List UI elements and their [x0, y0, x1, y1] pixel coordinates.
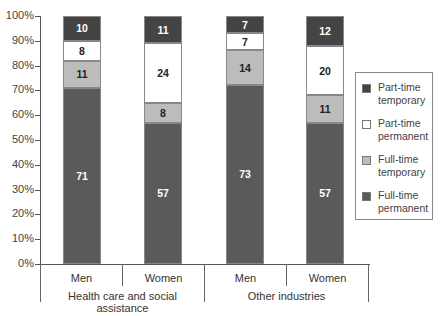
legend-swatch [362, 120, 371, 129]
legend-item-full-time-permanent: Full-timepermanent [362, 189, 434, 215]
bar-segment: 12 [306, 16, 344, 46]
stacked-bar: 7111810 [63, 16, 101, 264]
bar-segment: 7 [226, 16, 264, 33]
category-label: Women [287, 272, 368, 284]
y-tick-label: 50% [0, 133, 34, 145]
legend-swatch [362, 156, 371, 165]
legend-label: temporary [378, 166, 425, 178]
legend-item-part-time-temporary: Part-timetemporary [362, 81, 434, 107]
y-tick-label: 70% [0, 83, 34, 95]
bar-segment: 71 [63, 88, 101, 264]
group-label: Health care and social assistance [41, 290, 204, 314]
bar-segment: 11 [306, 95, 344, 122]
category-label: Men [205, 272, 286, 284]
legend-label: Full-time [378, 189, 418, 201]
legend-swatch [362, 84, 371, 93]
group-label: Other industries [205, 290, 368, 302]
legend-label: Full-time [378, 153, 418, 165]
y-tick-mark [35, 214, 40, 215]
y-tick-label: 40% [0, 158, 34, 170]
y-tick-mark [35, 90, 40, 91]
bar-segment: 24 [144, 43, 182, 103]
y-tick-mark [35, 115, 40, 116]
bar-segment: 57 [144, 123, 182, 264]
bar-segment: 7 [226, 33, 264, 50]
x-axis [35, 264, 370, 265]
y-tick-label: 30% [0, 183, 34, 195]
bar-segment: 8 [144, 103, 182, 123]
y-tick-mark [35, 41, 40, 42]
y-tick-label: 20% [0, 207, 34, 219]
y-tick-label: 90% [0, 34, 34, 46]
y-tick-label: 0% [0, 257, 34, 269]
category-label: Women [123, 272, 204, 284]
stacked-bar: 5782411 [144, 16, 182, 264]
y-tick-mark [35, 165, 40, 166]
y-tick-mark [35, 190, 40, 191]
group-divider [368, 264, 369, 302]
bar-segment: 73 [226, 85, 264, 264]
legend-label: permanent [378, 202, 428, 214]
y-tick-label: 10% [0, 232, 34, 244]
legend-label: Part-time [378, 81, 421, 93]
legend-swatch [362, 192, 371, 201]
bar-segment: 11 [63, 61, 101, 88]
legend: Part-timetemporary Part-timepermanent Fu… [355, 72, 433, 220]
legend-label: permanent [378, 130, 428, 142]
y-axis [40, 16, 41, 264]
y-tick-mark [35, 140, 40, 141]
y-tick-mark [35, 16, 40, 17]
stacked-bar: 57112012 [306, 16, 344, 264]
y-tick-mark [35, 239, 40, 240]
legend-label: temporary [378, 94, 425, 106]
category-label: Men [41, 272, 122, 284]
y-tick-label: 60% [0, 108, 34, 120]
bar-segment: 57 [306, 123, 344, 264]
bar-segment: 11 [144, 16, 182, 43]
bar-segment: 8 [63, 41, 101, 61]
legend-item-part-time-permanent: Part-timepermanent [362, 117, 434, 143]
bar-segment: 10 [63, 16, 101, 41]
y-tick-label: 80% [0, 59, 34, 71]
y-tick-label: 100% [0, 9, 34, 21]
legend-item-full-time-temporary: Full-timetemporary [362, 153, 434, 179]
bar-segment: 14 [226, 50, 264, 84]
bar-segment: 20 [306, 46, 344, 96]
legend-label: Part-time [378, 117, 421, 129]
y-tick-mark [35, 66, 40, 67]
stacked-bar-chart: 0%10%20%30%40%50%60%70%80%90%100% 711181… [0, 0, 442, 316]
stacked-bar: 731477 [226, 16, 264, 264]
